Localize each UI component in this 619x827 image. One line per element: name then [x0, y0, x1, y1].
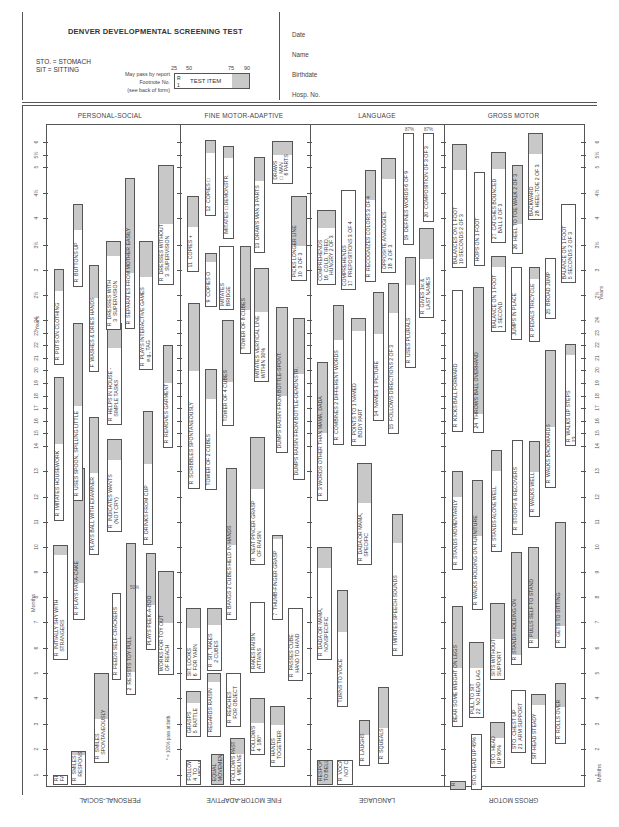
test-item-bar[interactable]: STO. HEAD UP 45%	[471, 734, 482, 790]
test-item-bar[interactable]: 2 RESISTS TOY PULL	[126, 543, 136, 695]
field-name[interactable]: Name	[292, 51, 309, 58]
test-item-bar[interactable]: BALANCE ON 1 FOOT 5 SECONDS 2 OF 3	[561, 204, 576, 283]
test-item-bar[interactable]: R SEPARATES FROM MOTHER EASILY	[125, 178, 135, 329]
test-item-bar[interactable]: RESPONDS TO BELL	[317, 760, 333, 785]
test-item-bar[interactable]: DUMPS RAISIN FROM BOTTLE-DEMONSTR.	[293, 318, 305, 480]
test-item-bar[interactable]: SITS WITHOUT SUPPORT	[490, 603, 505, 680]
test-item-bar[interactable]: OPPOSITE ANALOGIES 18 2 OF 3	[381, 158, 396, 273]
test-item-bar[interactable]: R WALKS BACKWARDS	[545, 350, 556, 488]
test-item-bar[interactable]: R BUTTONS UP	[73, 204, 83, 287]
test-item-bar[interactable]: R PEDALS TRICYCLE	[529, 267, 540, 342]
test-item-bar[interactable]: TURNS TO VOICE	[337, 590, 348, 707]
test-item-bar[interactable]: EQUAL MOVEMENTS	[211, 754, 224, 785]
test-item-bar[interactable]: COMPREHENDS 16 COLD, TIRED, HUNGRY 2 OF …	[317, 210, 336, 285]
test-item-bar[interactable]: R DADA OR MAMA, NONSPECIFIC	[317, 547, 332, 660]
test-item-bar[interactable]: 13 DRAWS MAN 3 PARTS	[254, 157, 265, 253]
test-item-bar[interactable]: R GETS TO SITTING	[555, 522, 566, 648]
test-item-bar[interactable]: R SIT, TAKES 2 CUBES	[207, 608, 222, 671]
test-item-bar[interactable]: 26 HEEL TO TOE WALK 2 OF 3	[512, 165, 523, 254]
field-birthdate[interactable]: Birthdate	[292, 71, 317, 78]
test-item-bar[interactable]: 11 COPIES +	[187, 196, 199, 272]
test-item-bar[interactable]: R HANDS TOGETHER	[270, 706, 285, 767]
test-item-bar[interactable]: 19 DEFINES WORDS 6 OF 9	[403, 133, 414, 245]
test-item-bar[interactable]: R USES PLURALS	[405, 257, 416, 368]
test-item-bar[interactable]: R PLAYS INTERACTIVE GAMES e.g., TAG	[139, 241, 153, 370]
test-item-bar[interactable]: R DADA OR MAMA, SPECIFIC	[357, 463, 372, 565]
test-item-bar[interactable]: R WALKS WELL	[529, 441, 540, 517]
test-item-bar[interactable]: COMPREHENDS 17 PREPOSITIONS 3 OF 4	[341, 190, 356, 290]
test-item-bar[interactable]: IMITATES VERTICAL LINE WITHIN 30%	[254, 268, 269, 382]
test-item-bar[interactable]: R PASSES CUBE HAND TO HAND	[288, 608, 303, 681]
test-item-bar[interactable]: R SQUEALS	[378, 687, 389, 764]
test-item-bar[interactable]: R ROLLS OVER	[555, 683, 566, 744]
test-item-bar[interactable]: R INITIALLY SHY WITH STRANGERS	[53, 545, 68, 660]
test-item-bar[interactable]: R DRESSES WITH 3 SUPERVISION	[106, 241, 121, 330]
test-item-bar[interactable]: DUMPS RAISIN FROM BOTTLE-SPONT.	[276, 307, 288, 453]
test-item-bar[interactable]: FOLLOWS 4 180°	[250, 698, 265, 755]
test-item-bar[interactable]: SIT, LOOKS 6 FOR YARN	[186, 608, 201, 680]
test-item-bar[interactable]: R REMOVES GARMENT	[163, 345, 173, 448]
test-item-bar[interactable]: F WASHES & DRIES HANDS	[89, 265, 99, 372]
test-item-bar[interactable]: R HELPS IN HOUSE - SIMPLE TASKS	[107, 323, 122, 425]
test-item-bar[interactable]: R WALKS HOLDING ON FURNITURE	[472, 480, 483, 610]
test-item-bar[interactable]: R 3 WORDS OTHER THAN MAMA, DADA	[317, 362, 328, 501]
test-item-bar[interactable]: R NEAT PINCER GRASP OF RAISIN	[250, 437, 265, 565]
test-item-bar[interactable]: TOWER OF 8 CUBES	[240, 246, 251, 354]
test-item-bar[interactable]: IMITATES □ DEMONSTR.	[223, 146, 234, 239]
test-item-bar[interactable]: FOLLOWS 4 TO MIDLINE	[186, 760, 201, 785]
test-item-bar[interactable]: R USES SPOON, SPILLING LITTLE	[73, 323, 83, 501]
test-item-bar[interactable]: R STANDS ALONE WELL	[491, 450, 502, 552]
test-item-bar[interactable]: TOWER OF 2 CUBES	[205, 369, 217, 490]
test-item-bar[interactable]: R IMITATES HOUSEWORK	[54, 377, 64, 521]
test-item-bar[interactable]: BALANCE ON 1 FOOT 1 SECOND	[491, 256, 506, 332]
test-item-bar[interactable]: R IMITATES SPEECH SOUNDS	[392, 514, 403, 656]
test-item-bar[interactable]: R STOOPS & RECOVERS	[512, 440, 523, 535]
test-item-bar[interactable]: BEAR SOME WEIGHT ON LEGS	[452, 606, 463, 727]
test-item-bar[interactable]: R DRINKS FROM CUP	[143, 411, 153, 545]
test-item-bar[interactable]: 14 NAMES 1 PICTURE	[373, 292, 384, 421]
test-item-bar[interactable]: R WALKS UP STEPS 23	[565, 344, 576, 446]
test-item-bar[interactable]: PICKS LONGER LINE 10 3 OF 3	[291, 196, 307, 281]
test-item-bar[interactable]: SIT-HEAD STEADY	[531, 694, 546, 764]
test-item-bar[interactable]: IMITATES BRIDGE	[219, 246, 234, 310]
test-item-bar[interactable]: REGARDS RAISIN	[207, 673, 221, 737]
test-item-bar[interactable]: R RECOGNIZES COLORS 3 OF 4	[365, 170, 376, 282]
test-item-bar[interactable]: R SMILES RESPONSIVELY	[71, 751, 86, 785]
test-item-bar[interactable]: R COMBINES 2 DIFFERENT WORDS	[333, 305, 344, 445]
test-item-bar[interactable]: R SMILES SPONTANEOUSLY	[94, 673, 109, 763]
test-item-bar[interactable]: R STO. LIFTS HEAD	[450, 781, 466, 790]
test-item-bar[interactable]: WORKS FOR TOY OUT OF REACH	[158, 571, 174, 675]
test-item-bar[interactable]: PLAYS PEEK-A-BOO	[146, 553, 156, 650]
test-item-bar[interactable]: BALANCES ON 1 FOOT 10 SECONDS 2 OF 3	[452, 144, 467, 268]
field-hosp-no[interactable]: Hosp. No.	[292, 91, 320, 98]
test-item-bar[interactable]: R VOCALIZES NOT CRYING	[337, 760, 353, 785]
test-item-bar[interactable]: 7 THUMB-FINGER GRASP	[272, 535, 283, 620]
test-item-bar[interactable]: R POINTS TO 1 NAMED BODY PART	[351, 318, 366, 446]
test-item-bar[interactable]: R GIVES 1st & LAST NAMES	[419, 228, 434, 318]
test-item-bar[interactable]: R FEEDS SELF CRACKERS	[112, 593, 121, 680]
test-item-bar[interactable]: 12 COPIES □	[205, 140, 216, 216]
test-item-bar[interactable]: 27 CATCHES BOUNCED BALL 2 OF 3	[491, 152, 506, 243]
test-item-bar[interactable]: GRASPS 5 RATTLE	[186, 691, 201, 737]
test-item-bar[interactable]: 20 COMPOSITION OF 3 OF 3	[423, 133, 434, 222]
test-item-bar[interactable]: PLAYS BALL WITH EXAMINER	[89, 417, 99, 555]
test-item-bar[interactable]: TOWER OF 4 CUBES	[222, 320, 234, 426]
test-item-bar[interactable]: R KICKS BALL FORWARD	[452, 290, 463, 432]
test-item-bar[interactable]: PULL TO SIT 22 NO HEAD LAG	[469, 642, 484, 718]
test-item-bar[interactable]: R STANDS MOMENTARILY	[452, 471, 463, 570]
field-date[interactable]: Date	[292, 31, 305, 38]
test-item-bar[interactable]: R DRESSES WITHOUT 3 SUPERVISION	[158, 165, 174, 285]
test-item-bar[interactable]: R STANDS HOLDING ON	[511, 552, 522, 665]
test-item-bar[interactable]: R BANGS 2 CUBES HELD IN HANDS	[226, 468, 237, 620]
test-item-bar[interactable]: REGARDS FACE	[53, 775, 68, 785]
test-item-bar[interactable]: FOLLOWS PAST 4 MIDLINE	[230, 738, 245, 785]
test-item-bar[interactable]: BACKWARD 28 HEEL-TOE 2 OF 3	[528, 133, 543, 220]
test-item-bar[interactable]: 15 FOLLOWS DIRECTIONS 2 OF 3	[388, 283, 399, 434]
test-item-bar[interactable]: 25 BROAD JUMP	[545, 258, 556, 319]
test-item-bar[interactable]: 9 COPIES O	[205, 253, 217, 307]
test-item-bar[interactable]: R PULLS SELF TO STAND	[528, 547, 539, 648]
test-item-bar[interactable]: JUMPS IN PLACE	[511, 267, 522, 340]
test-item-bar[interactable]: DRAWS □ MAN 6 PARTS	[272, 141, 293, 184]
test-item-bar[interactable]: HOPS ON 1 FOOT	[474, 172, 485, 266]
test-item-bar[interactable]: R SCRIBBLES SPONTANEOUSLY	[188, 303, 200, 489]
